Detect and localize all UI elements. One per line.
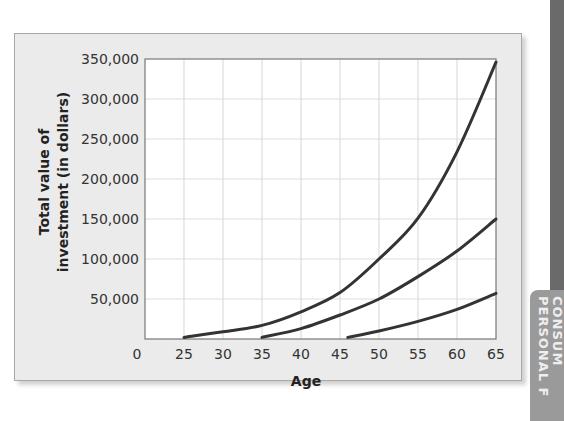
- chart-plot: 50,000100,000150,000200,000250,000300,00…: [0, 0, 564, 421]
- gridlines: [145, 59, 496, 339]
- side-bar-dark: [550, 0, 564, 298]
- y-tick-label: 350,000: [81, 51, 139, 67]
- x-axis-ticks: 0253035404550556065: [133, 346, 505, 362]
- y-tick-label: 300,000: [81, 91, 139, 107]
- side-tab-line1: CONSUM: [550, 296, 564, 397]
- y-tick-label: 200,000: [81, 171, 139, 187]
- y-axis-label-line2: investment (in dollars): [54, 92, 73, 272]
- side-tab: CONSUM PERSONAL F: [530, 290, 564, 421]
- x-tick-label: 60: [448, 346, 466, 362]
- y-axis-label-line1: Total value of: [35, 92, 54, 272]
- x-tick-label: 45: [331, 346, 349, 362]
- x-tick-label: 40: [292, 346, 310, 362]
- x-axis-label: Age: [291, 373, 321, 389]
- side-tab-line2: PERSONAL F: [536, 296, 550, 397]
- x-tick-label: 55: [409, 346, 427, 362]
- x-tick-label: 65: [487, 346, 505, 362]
- y-tick-label: 100,000: [81, 251, 139, 267]
- y-tick-label: 150,000: [81, 211, 139, 227]
- x-tick-label: 50: [370, 346, 388, 362]
- y-tick-label: 50,000: [90, 291, 139, 307]
- x-tick-label: 0: [133, 346, 142, 362]
- x-tick-label: 30: [214, 346, 232, 362]
- y-axis-label: Total value of investment (in dollars): [24, 72, 84, 292]
- x-tick-label: 25: [175, 346, 193, 362]
- x-tick-label: 35: [253, 346, 271, 362]
- y-axis-ticks: 50,000100,000150,000200,000250,000300,00…: [81, 51, 139, 307]
- y-tick-label: 250,000: [81, 131, 139, 147]
